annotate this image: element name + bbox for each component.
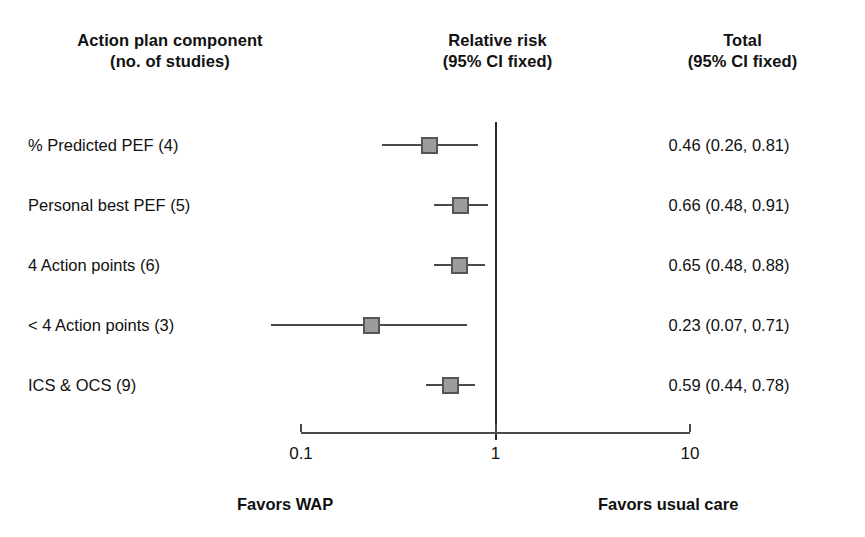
x-axis-tick-label: 10	[681, 444, 700, 464]
point-estimate-marker	[442, 377, 459, 394]
confidence-interval-line	[426, 384, 474, 386]
x-axis-line	[301, 432, 690, 434]
row-value: 0.59 (0.44, 0.78)	[600, 375, 858, 395]
point-estimate-marker	[421, 137, 438, 154]
row-value: 0.23 (0.07, 0.71)	[600, 315, 858, 335]
x-axis-tick-label: 0.1	[289, 444, 313, 464]
row-label: Personal best PEF (5)	[28, 195, 318, 215]
row-label: 4 Action points (6)	[28, 255, 318, 275]
confidence-interval-line	[434, 264, 485, 266]
point-estimate-marker	[363, 317, 380, 334]
column-header-total-line2: (95% CI fixed)	[630, 51, 855, 72]
row-value: 0.46 (0.26, 0.81)	[600, 135, 858, 155]
row-label: < 4 Action points (3)	[28, 315, 318, 335]
row-label: ICS & OCS (9)	[28, 375, 318, 395]
column-header-component-line2: (no. of studies)	[20, 51, 320, 72]
confidence-interval-line	[382, 144, 478, 146]
point-estimate-marker	[451, 257, 468, 274]
x-axis-tick	[300, 424, 302, 432]
x-axis-tick-label: 1	[491, 444, 500, 464]
null-effect-line	[495, 122, 497, 440]
row-value: 0.66 (0.48, 0.91)	[600, 195, 858, 215]
row-label: % Predicted PEF (4)	[28, 135, 318, 155]
column-header-relative-risk: Relative risk (95% CI fixed)	[370, 30, 625, 72]
column-header-component-line1: Action plan component	[77, 31, 262, 49]
column-header-total: Total (95% CI fixed)	[630, 30, 855, 72]
column-header-relative-risk-line2: (95% CI fixed)	[370, 51, 625, 72]
favors-right-label: Favors usual care	[598, 494, 738, 514]
column-header-total-line1: Total	[723, 31, 762, 49]
forest-plot-figure: Action plan component (no. of studies) R…	[0, 0, 865, 537]
favors-left-label: Favors WAP	[237, 494, 333, 514]
x-axis-tick	[689, 424, 691, 432]
column-header-relative-risk-line1: Relative risk	[448, 31, 547, 49]
confidence-interval-line	[434, 204, 488, 206]
column-header-component: Action plan component (no. of studies)	[20, 30, 320, 72]
row-value: 0.65 (0.48, 0.88)	[600, 255, 858, 275]
x-axis-tick	[495, 424, 497, 432]
point-estimate-marker	[452, 197, 469, 214]
